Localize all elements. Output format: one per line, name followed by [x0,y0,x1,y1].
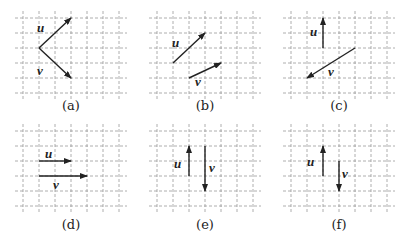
panel-caption: (d) [4,217,138,232]
panel-caption: (b) [138,98,272,113]
vector-u-label: u [174,156,181,171]
vector-v-label: v [53,177,59,192]
panel-caption: (f) [272,217,402,232]
panel-d: uv(d) [0,121,134,242]
vector-u-label: u [45,146,52,161]
vector-v-label: v [342,166,348,181]
vector-u-label: u [37,20,44,35]
vector-v-label: v [37,63,43,78]
panel-b: uv(b) [134,0,268,121]
vector-v-arrow [189,63,221,78]
panel-caption: (a) [4,98,138,113]
vector-v-label: v [195,74,201,89]
panel-caption: (e) [138,217,272,232]
panel-a: uv(a) [0,0,134,121]
vector-v-label: v [328,64,334,79]
panel-caption: (c) [272,98,402,113]
vector-u-label: u [310,24,317,39]
panel-c: uv(c) [268,0,402,121]
vector-v-label: v [209,160,215,175]
panel-e: uv(e) [134,121,268,242]
vector-u-label: u [307,154,314,169]
panel-f: uv(f) [268,121,402,242]
vector-u-label: u [172,35,179,50]
